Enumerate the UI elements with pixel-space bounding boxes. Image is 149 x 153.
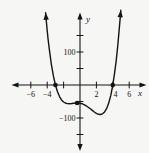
- y-tick-label: −100: [59, 114, 76, 123]
- marked-points: [53, 83, 115, 106]
- y-axis-label: y: [85, 14, 90, 24]
- x-axis-label: x: [137, 88, 142, 98]
- curve-end-arrows: [44, 10, 123, 20]
- x-axis-left-arrow-icon: [12, 82, 19, 87]
- graph-figure: −6−4246100−100 y x: [0, 0, 149, 153]
- y-axis-up-arrow-icon: [77, 13, 82, 20]
- y-axis-down-arrow-icon: [77, 144, 82, 151]
- x-tick-label: 2: [94, 90, 98, 99]
- curve-point-dot: [75, 101, 80, 106]
- curve-point-dot: [111, 83, 116, 88]
- polynomial-curve: [46, 10, 121, 114]
- x-tick-label: 6: [127, 90, 131, 99]
- curve-point-dot: [53, 83, 58, 88]
- x-tick-label: −6: [27, 90, 36, 99]
- y-tick-label: 100: [64, 48, 76, 57]
- x-tick-label: 4: [114, 90, 118, 99]
- x-tick-label: −4: [43, 90, 52, 99]
- function-graph: −6−4246100−100 y x: [0, 0, 149, 153]
